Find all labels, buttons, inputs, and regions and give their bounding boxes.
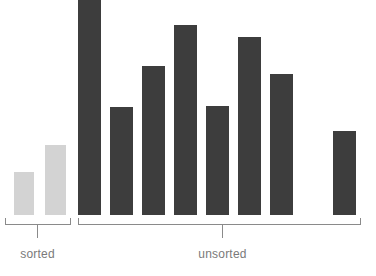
chart-bar: [206, 106, 229, 215]
bracket-right-cap: [70, 218, 71, 225]
bracket-left-cap: [78, 218, 79, 225]
bracket-center-tick: [222, 224, 223, 238]
bracket-center-tick: [37, 224, 38, 238]
group-label-unsorted: unsorted: [194, 247, 251, 261]
bracket-left-cap: [5, 218, 6, 225]
bar-chart: sortedunsorted: [0, 0, 376, 276]
bracket-horizontal-line: [78, 224, 360, 225]
chart-bar: [110, 107, 133, 215]
chart-bar: [142, 66, 165, 215]
bracket-right-cap: [360, 218, 361, 225]
group-label-sorted: sorted: [18, 247, 57, 261]
chart-bar: [14, 172, 34, 215]
chart-plot-area: sortedunsorted: [0, 0, 376, 276]
chart-bar: [333, 131, 356, 215]
chart-bar: [45, 145, 66, 215]
chart-bar: [270, 74, 293, 215]
chart-bar: [78, 0, 101, 215]
chart-bar: [174, 25, 197, 215]
chart-bar: [238, 37, 261, 215]
